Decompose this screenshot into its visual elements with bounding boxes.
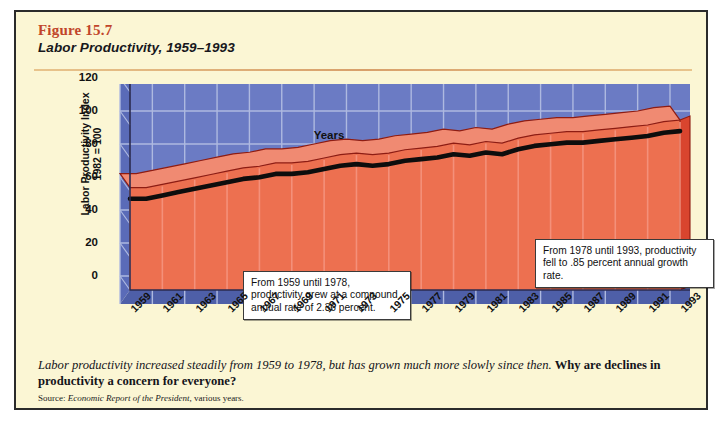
x-axis-label: Years (34, 129, 624, 141)
y-tick-label: 60 (64, 170, 98, 182)
y-tick-label: 120 (64, 71, 98, 83)
y-tick-label: 100 (64, 104, 98, 116)
y-axis-ticks: 020406080100120 (62, 84, 98, 294)
chart-area: Labor Productivity Index 1982 = 100 0204… (34, 84, 692, 332)
x-axis-ticks: 1959196119631965196719691971197319751977… (102, 306, 692, 346)
caption-lead: Labor productivity increased steadily fr… (38, 358, 555, 372)
source-prefix: Source: (38, 393, 68, 403)
y-tick-label: 20 (64, 236, 98, 248)
y-tick-label: 40 (64, 203, 98, 215)
figure-caption: Labor productivity increased steadily fr… (38, 357, 688, 389)
source-title: Economic Report of the President (68, 393, 190, 403)
annotation-callout-right: From 1978 until 1993, productivity fell … (535, 239, 714, 288)
source-rest: , various years. (189, 393, 243, 403)
figure-number: Figure 15.7 (38, 22, 112, 39)
y-tick-label: 0 (64, 269, 98, 281)
figure-title: Labor Productivity, 1959–1993 (38, 40, 235, 55)
figure-source: Source: Economic Report of the President… (38, 393, 688, 403)
title-divider (34, 69, 692, 71)
figure-panel: Figure 15.7 Labor Productivity, 1959–199… (14, 10, 708, 410)
